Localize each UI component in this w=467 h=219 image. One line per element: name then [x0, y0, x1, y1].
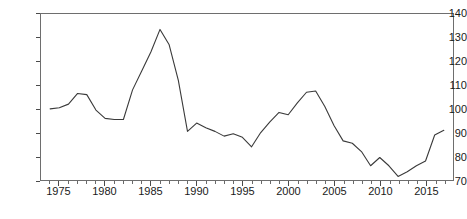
- y-tick-label-120: 120: [435, 56, 467, 66]
- x-tick-label-2005: 2005: [314, 185, 354, 197]
- x-tick-1974: [49, 181, 50, 184]
- series-polyline: [50, 29, 444, 176]
- x-tick-1999: [279, 181, 280, 184]
- x-tick-2012: [399, 181, 400, 184]
- x-tick-2016: [436, 181, 437, 184]
- x-tick-2017: [445, 181, 446, 184]
- y-tick-mark-110: [36, 85, 40, 86]
- x-tick-label-2010: 2010: [360, 185, 400, 197]
- y-tick-mark-130: [36, 37, 40, 38]
- line-chart: 1401301201101009080701975198019851990199…: [0, 0, 467, 219]
- x-tick-label-1985: 1985: [130, 185, 170, 197]
- x-tick-1992: [215, 181, 216, 184]
- x-tick-label-1980: 1980: [84, 185, 124, 197]
- x-tick-2002: [307, 181, 308, 184]
- x-tick-1978: [86, 181, 87, 184]
- y-tick-mark-80: [36, 157, 40, 158]
- x-tick-2011: [390, 181, 391, 184]
- y-tick-label-140: 140: [435, 8, 467, 18]
- x-tick-2014: [417, 181, 418, 184]
- x-tick-2008: [362, 181, 363, 184]
- y-tick-mark-140: [36, 13, 40, 14]
- y-tick-label-110: 110: [435, 80, 467, 90]
- plot-area: [40, 13, 454, 181]
- y-tick-mark-90: [36, 133, 40, 134]
- y-tick-mark-120: [36, 61, 40, 62]
- x-tick-2003: [316, 181, 317, 184]
- x-tick-2007: [353, 181, 354, 184]
- x-tick-1981: [114, 181, 115, 184]
- y-tick-label-80: 80: [435, 152, 467, 162]
- x-tick-label-1995: 1995: [222, 185, 262, 197]
- x-tick-1991: [206, 181, 207, 184]
- x-tick-label-2000: 2000: [268, 185, 308, 197]
- y-tick-label-90: 90: [435, 128, 467, 138]
- x-tick-1996: [252, 181, 253, 184]
- x-tick-1984: [141, 181, 142, 184]
- y-tick-mark-100: [36, 109, 40, 110]
- x-tick-1993: [224, 181, 225, 184]
- x-tick-1982: [123, 181, 124, 184]
- x-tick-1988: [178, 181, 179, 184]
- x-tick-1997: [261, 181, 262, 184]
- x-tick-2006: [344, 181, 345, 184]
- x-tick-1983: [132, 181, 133, 184]
- x-tick-label-1975: 1975: [38, 185, 78, 197]
- x-tick-2004: [325, 181, 326, 184]
- y-tick-label-100: 100: [435, 104, 467, 114]
- series-line: [41, 14, 453, 180]
- y-tick-label-130: 130: [435, 32, 467, 42]
- x-tick-1979: [95, 181, 96, 184]
- x-tick-1989: [187, 181, 188, 184]
- x-tick-2009: [371, 181, 372, 184]
- x-tick-label-1990: 1990: [176, 185, 216, 197]
- x-tick-1994: [233, 181, 234, 184]
- x-tick-1986: [160, 181, 161, 184]
- x-tick-1977: [77, 181, 78, 184]
- x-tick-2001: [298, 181, 299, 184]
- x-tick-1998: [270, 181, 271, 184]
- x-tick-1976: [68, 181, 69, 184]
- x-tick-label-2015: 2015: [406, 185, 446, 197]
- y-tick-mark-70: [36, 181, 40, 182]
- x-tick-1987: [169, 181, 170, 184]
- x-tick-2013: [408, 181, 409, 184]
